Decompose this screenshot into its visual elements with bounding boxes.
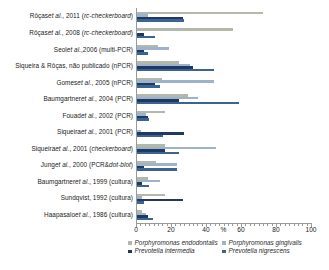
x-tick-label: 60 — [237, 227, 244, 234]
category-label: Siqueira et al., 2001 (checkerboard) — [0, 141, 136, 156]
x-tick-label: 80 — [272, 227, 279, 234]
bar-group — [137, 141, 329, 156]
plot-area: Rôças et al., 2011 (rc-checkerboard)Rôça… — [0, 8, 329, 223]
bar-chart: Rôças et al., 2011 (rc-checkerboard)Rôça… — [0, 0, 329, 270]
bar — [137, 218, 153, 221]
category-label: Baumgartner et al., 1999 (cultura) — [0, 174, 136, 189]
x-axis-tick — [193, 223, 194, 226]
legend-swatch-icon — [128, 250, 132, 254]
x-axis-tick-labels: 020406080100% — [136, 227, 326, 237]
x-axis-tick — [162, 223, 163, 226]
bar — [137, 135, 163, 138]
bar-group — [137, 208, 329, 223]
bar-group — [137, 174, 329, 189]
bar — [137, 168, 177, 171]
bar-group — [137, 26, 329, 41]
x-axis-tick — [254, 223, 255, 226]
x-tick-label: 0 — [134, 227, 138, 234]
bars-container — [136, 8, 329, 223]
category-label: Rôças et al., 2011 (rc-checkerboard) — [0, 9, 136, 24]
x-axis-tick — [294, 223, 295, 226]
x-axis-tick — [245, 223, 246, 226]
bar-group — [137, 42, 329, 57]
x-axis-tick — [215, 223, 216, 226]
bar-group — [137, 75, 329, 90]
category-label: Rôças et al., 2008 (rc-checkerboard) — [0, 26, 136, 41]
category-label: Siqueira & Rôças, não publicado (nPCR) — [0, 59, 136, 74]
bar-group — [137, 125, 329, 140]
bar — [137, 28, 233, 31]
x-axis-tick — [158, 223, 159, 226]
x-axis-tick — [285, 223, 286, 226]
x-axis-tick — [189, 223, 190, 226]
legend: Porphyromonas endodontalisPorphyromonas … — [128, 240, 328, 255]
x-axis-tick — [175, 223, 176, 226]
category-axis-labels: Rôças et al., 2011 (rc-checkerboard)Rôça… — [0, 8, 136, 223]
bar-group — [137, 9, 329, 24]
x-axis-tick — [302, 223, 303, 226]
bar-group — [137, 191, 329, 206]
bar — [137, 19, 184, 22]
bar-group — [137, 59, 329, 74]
bar-group — [137, 158, 329, 173]
x-axis-tick — [184, 223, 185, 226]
x-axis-tick — [149, 223, 150, 226]
x-axis-tick — [210, 223, 211, 226]
bar-group — [137, 92, 329, 107]
category-label: Gomes et al., 2005 (nPCR) — [0, 75, 136, 90]
x-axis-tick — [298, 223, 299, 226]
legend-label: Prevotella nigrescens — [229, 248, 290, 254]
x-axis-tick — [263, 223, 264, 226]
category-label: Seol et al.,2006 (multi-PCR) — [0, 42, 136, 57]
x-axis-tick — [228, 223, 229, 226]
bar — [137, 12, 263, 15]
bar — [137, 118, 149, 121]
category-label: Fouad et al., 2002 (PCR) — [0, 108, 136, 123]
bar — [137, 52, 148, 55]
legend-label: Porphyromonas gingivalis — [229, 240, 302, 246]
legend-swatch-icon — [222, 250, 226, 254]
legend-item[interactable]: Prevotella nigrescens — [222, 248, 322, 254]
category-label: Sundqvist, 1992 (cultura) — [0, 191, 136, 206]
x-tick-label: 20 — [167, 227, 174, 234]
bar — [137, 185, 149, 188]
category-label: Jung et al., 2000 (PCR&dot-blot) — [0, 158, 136, 173]
bar — [137, 69, 214, 72]
legend-item[interactable]: Porphyromonas gingivalis — [222, 240, 322, 246]
x-axis-tick — [250, 223, 251, 226]
x-axis-tick — [154, 223, 155, 226]
bar — [137, 102, 239, 105]
bar-group — [137, 108, 329, 123]
x-axis-unit-label: % — [221, 227, 227, 234]
x-tick-label: 100 — [305, 227, 316, 234]
x-axis-tick — [140, 223, 141, 226]
x-axis-tick — [267, 223, 268, 226]
x-axis-tick — [197, 223, 198, 226]
x-axis-tick — [180, 223, 181, 226]
category-label: Baumgartner et al., 2004 (PCR) — [0, 92, 136, 107]
legend-item[interactable]: Porphyromonas endodontalis — [128, 240, 222, 246]
category-label: Siqueira et al., 2001 (PCR) — [0, 125, 136, 140]
legend-swatch-icon — [128, 241, 132, 245]
x-axis-tick — [145, 223, 146, 226]
bar — [137, 152, 179, 155]
x-tick-label: 40 — [202, 227, 209, 234]
legend-swatch-icon — [222, 241, 226, 245]
bar — [137, 201, 144, 204]
x-axis-tick — [289, 223, 290, 226]
legend-label: Porphyromonas endodontalis — [135, 240, 218, 246]
x-axis-tick — [232, 223, 233, 226]
x-axis-tick — [280, 223, 281, 226]
legend-label: Prevotella intermedia — [135, 248, 195, 254]
legend-item[interactable]: Prevotella intermedia — [128, 248, 222, 254]
x-axis-tick — [259, 223, 260, 226]
bar — [137, 85, 160, 88]
category-label: Haapasalo et al., 1986 (cultura) — [0, 208, 136, 223]
bar — [137, 36, 155, 39]
